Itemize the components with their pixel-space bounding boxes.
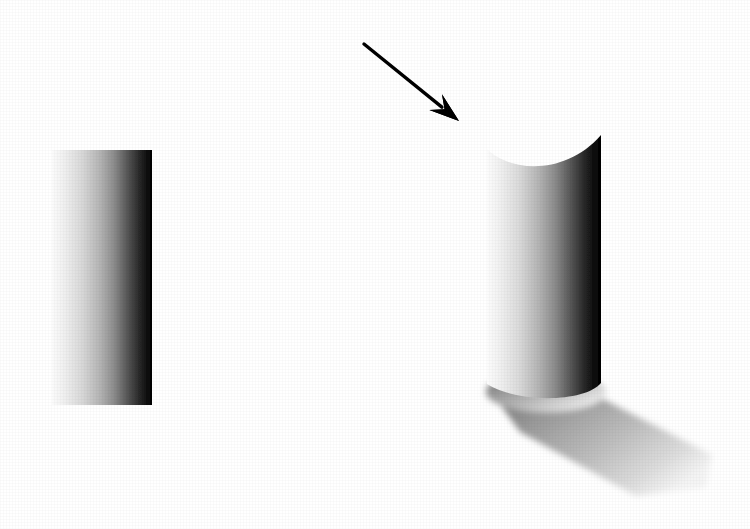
flat-gradient-rectangle xyxy=(52,150,152,405)
scene-svg xyxy=(0,0,750,529)
stimulus-canvas xyxy=(0,0,750,529)
shaded-cylinder xyxy=(487,135,601,398)
